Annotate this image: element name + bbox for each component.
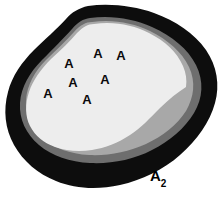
zone-marker-a-5: A <box>93 47 102 60</box>
zone-marker-a-3: A <box>68 76 77 89</box>
caption-subscript: 2 <box>161 178 167 189</box>
zone-marker-a-1: A <box>43 87 52 100</box>
zone-marker-a-6: A <box>100 73 109 86</box>
figure-caption-label: A2 <box>150 168 166 187</box>
zone-marker-a-2: A <box>64 57 73 70</box>
specimen-cross-section-diagram <box>0 0 224 200</box>
zone-marker-a-4: A <box>82 93 91 106</box>
figure-container: A A A A A A A A2 <box>0 0 224 200</box>
caption-base-letter: A <box>150 167 161 184</box>
zone-marker-a-7: A <box>116 49 125 62</box>
